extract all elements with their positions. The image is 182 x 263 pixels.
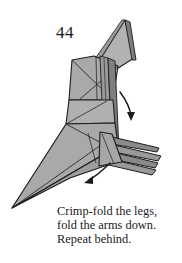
caption-line-2: fold the arms down. [57,218,182,232]
origami-instruction-page: 44 [0,0,182,263]
arms-fold-down-arrow-head [127,112,135,121]
mid-body-facet [66,100,115,124]
mid-body-group [66,100,115,124]
arms-fold-down-arrow [120,92,135,121]
caption-line-1: Crimp-fold the legs, [57,204,182,218]
legs-crimp-fold-arrow-head [84,176,93,184]
caption-line-3: Repeat behind. [57,232,182,246]
caption: Crimp-fold the legs, fold the arms down.… [57,204,182,247]
leg-spikes-group [99,132,161,175]
